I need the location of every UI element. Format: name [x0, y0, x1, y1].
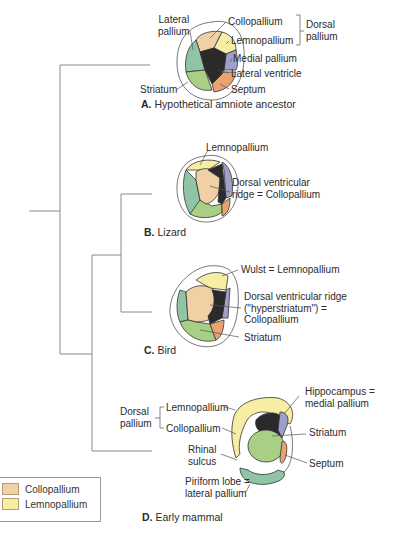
legend-item-collopallium: Collopallium — [2, 483, 79, 495]
legend-label: Collopallium — [25, 484, 79, 495]
label-collopallium: Collopallium — [228, 16, 282, 28]
label-dorsal-pallium: Dorsal pallium — [306, 19, 338, 42]
legend-swatch — [2, 483, 19, 495]
caption-panel-c: C.Bird — [144, 344, 176, 356]
label-piriform-lobe: Piriform lobe = lateral pallium — [185, 476, 250, 499]
brain-lizard — [177, 155, 238, 222]
brain-early-mammal — [232, 398, 293, 485]
label-line: Lateral — [158, 14, 190, 26]
caption-text: Hypothetical amniote ancestor — [155, 98, 296, 110]
label-line: pallium — [158, 26, 190, 38]
panel-letter: C. — [144, 344, 155, 356]
caption-panel-a: A.Hypothetical amniote ancestor — [141, 98, 296, 110]
label-striatum: Striatum — [244, 332, 281, 344]
legend-item-lemnopallium: Lemnopallium — [2, 498, 87, 510]
label-medial-pallium: Medial pallium — [233, 53, 297, 65]
panel-letter: D. — [142, 511, 153, 523]
label-septum: Septum — [231, 84, 265, 96]
label-dorsal-ventricular-ridge: Dorsal ventricular ridge ("hyperstriatum… — [244, 291, 347, 326]
caption-text: Early mammal — [156, 511, 223, 523]
label-septum: Septum — [309, 458, 343, 470]
label-line: sulcus — [188, 456, 216, 468]
label-wulst: Wulst = Lemnopallium — [241, 264, 339, 276]
label-line: Hippocampus = — [305, 386, 375, 398]
label-line: lateral pallium — [185, 488, 250, 500]
label-hippocampus: Hippocampus = medial pallium — [305, 386, 375, 409]
label-lemnopallium: Lemnopallium — [231, 35, 293, 47]
caption-text: Lizard — [158, 226, 187, 238]
label-line: Dorsal — [306, 19, 338, 31]
label-line: medial pallium — [305, 398, 375, 410]
label-rhinal-sulcus: Rhinal sulcus — [188, 444, 216, 467]
label-line: pallium — [120, 418, 152, 430]
label-collopallium: Collopallium — [166, 423, 220, 435]
panel-letter: A. — [141, 98, 152, 110]
brain-bird — [170, 266, 238, 347]
label-lemnopallium: Lemnopallium — [166, 402, 228, 414]
label-line: Piriform lobe = — [185, 476, 250, 488]
legend-label: Lemnopallium — [25, 499, 87, 510]
panel-letter: B. — [144, 226, 155, 238]
label-line: ("hyperstriatum") = — [244, 303, 347, 315]
label-striatum: Striatum — [309, 427, 346, 439]
label-line: Dorsal ventricular — [232, 177, 320, 189]
label-lemnopallium: Lemnopallium — [206, 142, 268, 154]
caption-panel-b: B.Lizard — [144, 226, 186, 238]
label-lateral-ventricle: Lateral ventricle — [231, 68, 302, 80]
label-line: Rhinal — [188, 444, 216, 456]
caption-text: Bird — [158, 344, 177, 356]
label-line: Dorsal — [120, 406, 152, 418]
label-line: ridge = Collopallium — [232, 189, 320, 201]
label-dorsal-ventricular-ridge: Dorsal ventricular ridge = Collopallium — [232, 177, 320, 200]
label-dorsal-pallium: Dorsal pallium — [120, 406, 152, 429]
label-line: Collopallium — [244, 314, 347, 326]
label-striatum: Striatum — [140, 84, 177, 96]
legend-swatch — [2, 498, 19, 510]
label-line: Dorsal ventricular ridge — [244, 291, 347, 303]
caption-panel-d: D.Early mammal — [142, 511, 223, 523]
phylogenetic-tree — [29, 65, 152, 451]
legend: Collopallium Lemnopallium — [0, 477, 101, 522]
label-lateral-pallium: Lateral pallium — [158, 14, 190, 37]
label-line: pallium — [306, 31, 338, 43]
